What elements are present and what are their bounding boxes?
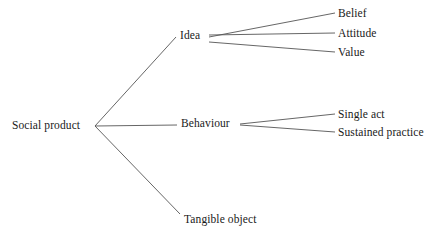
node-idea: Idea: [180, 29, 200, 42]
edge-root-to-idea: [95, 37, 176, 126]
node-attitude: Attitude: [338, 27, 377, 40]
edge-idea-to-value: [209, 42, 335, 52]
node-value: Value: [338, 46, 365, 59]
edge-behaviour-to-single-act: [240, 114, 335, 124]
edge-root-to-behaviour: [95, 125, 177, 126]
node-belief: Belief: [338, 7, 367, 20]
node-behaviour: Behaviour: [181, 117, 230, 130]
social-product-tree-diagram: Social product Idea Behaviour Tangible o…: [0, 0, 435, 238]
node-sustained-practice: Sustained practice: [338, 126, 424, 139]
node-tangible-object: Tangible object: [184, 213, 257, 226]
edge-root-to-tangible: [95, 126, 180, 214]
edge-behaviour-to-sustained: [240, 125, 335, 132]
node-social-product: Social product: [12, 119, 80, 132]
node-single-act: Single act: [338, 108, 385, 121]
